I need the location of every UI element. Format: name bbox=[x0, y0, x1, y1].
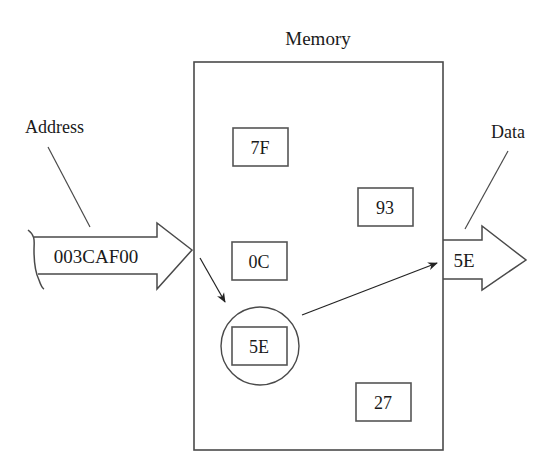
memory-diagram: Memory Address 003CAF00 7F 93 0C 5E 27 D… bbox=[0, 0, 555, 468]
selected-memory-cell: 5E bbox=[221, 307, 299, 385]
cell-value: 27 bbox=[374, 393, 392, 413]
data-output-arrow bbox=[302, 263, 437, 315]
cell-value: 5E bbox=[249, 337, 269, 357]
memory-cell: 27 bbox=[356, 383, 411, 421]
address-leader-line bbox=[48, 147, 90, 227]
data-leader-line bbox=[465, 151, 508, 229]
memory-cell: 7F bbox=[233, 128, 288, 166]
address-select-arrow bbox=[200, 258, 225, 302]
data-value: 5E bbox=[453, 250, 474, 271]
data-label: Data bbox=[491, 122, 525, 142]
address-value: 003CAF00 bbox=[54, 246, 138, 267]
memory-cell: 93 bbox=[358, 188, 413, 226]
memory-title: Memory bbox=[285, 28, 351, 49]
memory-cell: 0C bbox=[232, 242, 287, 280]
address-label: Address bbox=[25, 117, 84, 137]
cell-value: 93 bbox=[376, 198, 394, 218]
cell-value: 7F bbox=[250, 138, 269, 158]
cell-value: 0C bbox=[248, 252, 269, 272]
